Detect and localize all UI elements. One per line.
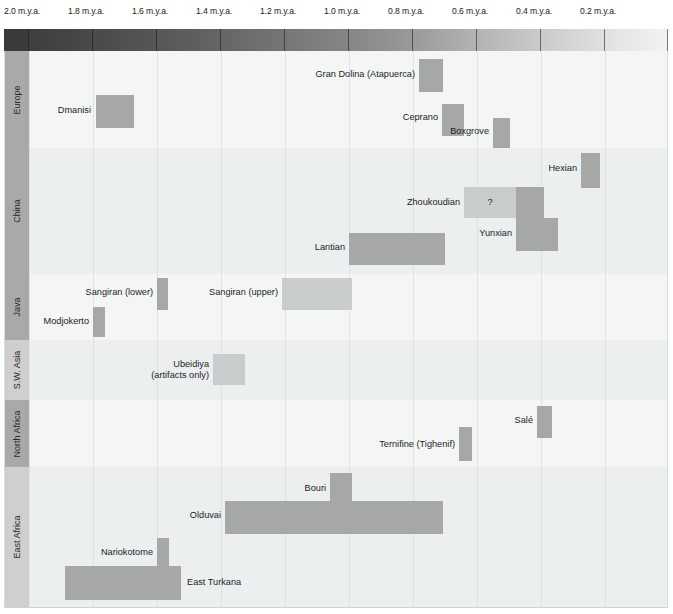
bar-label-bouri: Bouri: [277, 483, 326, 494]
bar-sale[interactable]: [537, 406, 552, 438]
bar-sangiran-lower[interactable]: [157, 278, 168, 310]
bar-yunxian[interactable]: [516, 218, 558, 251]
bar-label-sangiran-lower: Sangiran (lower): [49, 287, 153, 298]
region-label-java: Java: [5, 274, 29, 340]
bar-label-ubeidiya: Ubeidiya (artifacts only): [123, 359, 209, 381]
gradient-tick-1-2: [284, 29, 285, 51]
bar-dmanisi[interactable]: [96, 95, 134, 128]
bar-label-zhoukoudian: Zhoukoudian: [380, 197, 460, 208]
gradient-tick-1-6: [156, 29, 157, 51]
bar-label-gran-dolina: Gran Dolina (Atapuerca): [279, 69, 415, 80]
bar-label-east-turkana: East Turkana: [187, 577, 287, 588]
region-label-java-text: Java: [12, 297, 22, 316]
axis-tick-label-0-6: 0.6 m.y.a.: [452, 6, 488, 16]
bar-label-hexian: Hexian: [508, 163, 577, 174]
gradient-tick-1-8: [92, 29, 93, 51]
axis-tick-label-0-4: 0.4 m.y.a.: [516, 6, 552, 16]
gradient-tick-1-0: [348, 29, 349, 51]
gridline-1-4: [221, 51, 222, 607]
bar-label-sangiran-upper: Sangiran (upper): [173, 287, 278, 298]
region-label-north-africa: North Africa: [5, 400, 29, 467]
bar-boxgrove[interactable]: [493, 118, 510, 148]
bar-lantian[interactable]: [349, 233, 445, 265]
bar-label-lantian: Lantian: [275, 242, 345, 253]
bar-modjokerto[interactable]: [93, 307, 105, 337]
bar-ubeidiya[interactable]: [213, 354, 245, 385]
bar-label-ubeidiya-line1: Ubeidiya: [123, 359, 209, 370]
region-label-east-africa-text: East Africa: [12, 515, 22, 558]
bar-label-yunxian: Yunxian: [442, 228, 512, 239]
bar-zhoukoudian[interactable]: [516, 187, 544, 218]
gradient-bar-left-cap: [4, 29, 28, 51]
gridline-0-2: [605, 51, 606, 607]
gradient-tick-0-2: [604, 29, 605, 51]
time-gradient-bar: [4, 29, 668, 51]
gradient-tick-2-0: [28, 29, 29, 51]
bar-label-sale: Salé: [483, 415, 533, 426]
axis-tick-label-0-2: 0.2 m.y.a.: [580, 6, 616, 16]
bar-sangiran-upper[interactable]: [282, 278, 352, 310]
axis-tick-label-2-0: 2.0 m.y.a.: [4, 6, 40, 16]
bar-label-modjokerto: Modjokerto: [13, 316, 89, 327]
region-label-north-africa-text: North Africa: [12, 410, 22, 457]
bar-label-ubeidiya-line2: (artifacts only): [123, 370, 209, 381]
bar-label-zhoukoudian-question-mark: ?: [464, 197, 516, 207]
bar-label-dmanisi: Dmanisi: [21, 105, 91, 116]
axis-tick-label-1-6: 1.6 m.y.a.: [132, 6, 168, 16]
plot-area: Europe China Java S.W. Asia North Africa…: [4, 51, 668, 607]
region-label-europe: Europe: [5, 51, 29, 148]
region-label-china: China: [5, 148, 29, 274]
bar-label-ceprano: Ceprano: [360, 112, 438, 123]
gridline-1-6: [157, 51, 158, 607]
bar-label-olduvai: Olduvai: [157, 510, 221, 521]
region-label-sw-asia-text: S.W. Asia: [12, 351, 22, 390]
axis-tick-label-1-2: 1.2 m.y.a.: [260, 6, 296, 16]
axis-tick-label-0-8: 0.8 m.y.a.: [388, 6, 424, 16]
bar-ternifine[interactable]: [459, 427, 472, 461]
region-label-east-africa: East Africa: [5, 467, 29, 607]
plot-bottom-rule: [4, 607, 668, 608]
band-north-africa: [5, 400, 667, 467]
gradient-tick-0-4: [540, 29, 541, 51]
time-axis-label-row: 2.0 m.y.a. 1.8 m.y.a. 1.6 m.y.a. 1.4 m.y…: [0, 0, 673, 28]
gradient-tick-1-4: [220, 29, 221, 51]
bar-hexian[interactable]: [581, 153, 600, 188]
region-label-sw-asia: S.W. Asia: [5, 340, 29, 400]
gradient-tick-0-8: [412, 29, 413, 51]
gradient-tick-right-edge: [667, 29, 668, 51]
axis-tick-label-1-4: 1.4 m.y.a.: [196, 6, 232, 16]
gradient-tick-0-6: [476, 29, 477, 51]
bar-olduvai[interactable]: [225, 501, 443, 534]
band-sw-asia: [5, 340, 667, 400]
axis-tick-label-1-8: 1.8 m.y.a.: [68, 6, 104, 16]
region-label-china-text: China: [12, 199, 22, 223]
bar-label-boxgrove: Boxgrove: [409, 126, 489, 137]
bar-label-nariokotome: Nariokotome: [67, 547, 153, 558]
bar-label-ternifine: Ternifine (Tighenif): [344, 439, 455, 450]
timeline-chart-root: 2.0 m.y.a. 1.8 m.y.a. 1.6 m.y.a. 1.4 m.y…: [0, 0, 673, 614]
bar-gran-dolina[interactable]: [419, 59, 443, 92]
bar-east-turkana[interactable]: [65, 566, 181, 600]
axis-tick-label-1-0: 1.0 m.y.a.: [324, 6, 360, 16]
gridline-0-4: [541, 51, 542, 607]
gridline-2-0: [29, 51, 30, 607]
